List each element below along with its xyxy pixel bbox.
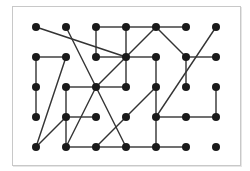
graph-edge: [156, 27, 186, 57]
graph-node: [182, 113, 190, 121]
graph-node: [62, 83, 70, 91]
graph-node: [32, 143, 40, 151]
graph-node: [182, 83, 190, 91]
graph-node: [32, 53, 40, 61]
graph-node: [182, 53, 190, 61]
graph-node: [92, 53, 100, 61]
graph-node: [212, 143, 220, 151]
graph-node: [182, 143, 190, 151]
graph-edge: [36, 27, 126, 57]
graph-node: [122, 83, 130, 91]
graph-edge: [36, 57, 66, 147]
graph-edge: [126, 87, 156, 117]
graph-edge: [96, 117, 126, 147]
graph-node: [92, 143, 100, 151]
graph-node: [122, 23, 130, 31]
graph-node: [122, 143, 130, 151]
graph-node: [212, 23, 220, 31]
graph-node: [32, 83, 40, 91]
graph-node: [62, 23, 70, 31]
graph-edge: [96, 57, 126, 87]
graph-edge: [96, 87, 126, 147]
graph-node: [92, 83, 100, 91]
graph-node: [92, 23, 100, 31]
graph-edge: [126, 27, 156, 57]
graph-node: [152, 53, 160, 61]
graph-node: [62, 113, 70, 121]
graph-node: [152, 23, 160, 31]
graph-node: [122, 113, 130, 121]
graph-node: [62, 53, 70, 61]
graph-diagram: [0, 0, 250, 171]
graph-node: [32, 113, 40, 121]
graph-node: [92, 113, 100, 121]
graph-node: [62, 143, 70, 151]
graph-node: [122, 53, 130, 61]
graph-node: [152, 83, 160, 91]
graph-edge: [156, 27, 216, 117]
graph-node: [212, 113, 220, 121]
graph-node: [212, 53, 220, 61]
graph-edge: [66, 27, 96, 87]
graph-node: [212, 83, 220, 91]
graph-node: [152, 143, 160, 151]
graph-node: [152, 113, 160, 121]
graph-node: [32, 23, 40, 31]
graph-node: [182, 23, 190, 31]
